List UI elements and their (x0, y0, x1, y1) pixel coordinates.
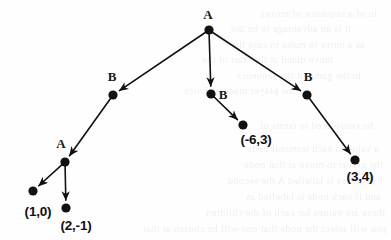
leaf-node-dot[interactable] (28, 186, 37, 195)
internal-node-dot[interactable] (60, 157, 69, 166)
player-label-root: A (203, 7, 212, 23)
figure-canvas: in of a sequence of movesit is an advant… (0, 0, 391, 240)
tree-edge (209, 34, 211, 87)
player-label-a2: A (56, 136, 65, 152)
leaf-payoff-label-leaf1: (1,0) (25, 204, 52, 219)
tree-edge (65, 166, 66, 201)
player-label-b1: B (108, 69, 117, 85)
leaf-payoff-label-leaf4: (3,4) (347, 169, 374, 184)
player-label-b2: B (219, 87, 228, 103)
leaf-node-dot[interactable] (350, 155, 359, 164)
player-label-b3: B (304, 69, 313, 85)
internal-node-dot[interactable] (302, 90, 311, 99)
tree-edges (39, 32, 351, 200)
leaf-payoff-label-leaf2: (2,-1) (60, 218, 91, 233)
internal-node-dot[interactable] (108, 90, 117, 99)
internal-node-dot[interactable] (204, 25, 213, 34)
leaf-node-dot[interactable] (61, 203, 70, 212)
tree-edge (70, 98, 111, 156)
tree-edge (39, 164, 63, 185)
tree-edge (119, 32, 206, 91)
tree-nodes (28, 25, 359, 212)
tree-edge (309, 98, 350, 154)
leaf-node-dot[interactable] (238, 120, 247, 129)
internal-node-dot[interactable] (206, 89, 215, 98)
game-tree-graphic (0, 0, 391, 240)
leaf-payoff-label-leaf3: (-6,3) (240, 132, 271, 147)
tree-edge (212, 32, 301, 91)
